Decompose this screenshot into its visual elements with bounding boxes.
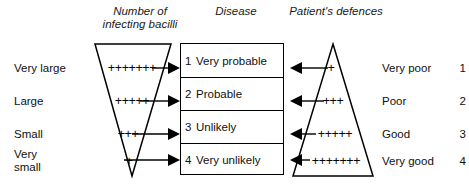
defences-label-row-2-number: 2 — [456, 95, 466, 108]
disease-row-2-label: Probable — [196, 88, 242, 100]
column-heading-patients-defences: Patient's defences — [272, 5, 400, 18]
defences-label-row-3: Good 3 — [382, 128, 466, 141]
bacilli-label-row-1: Very large — [14, 62, 96, 75]
defences-label-row-1: Very poor 1 — [382, 62, 466, 75]
defences-label-row-1-text: Very poor — [382, 62, 431, 75]
disease-row-1: 1 Very probable — [181, 44, 283, 77]
defences-pluses-row-4: +++++++ — [299, 155, 373, 167]
disease-row-3: 3 Unlikely — [181, 110, 283, 143]
defences-pluses-row-3: +++++ — [300, 128, 370, 140]
defences-pluses-row-1: + — [300, 62, 362, 74]
disease-probability-diagram: Number of infecting bacilli Disease Pati… — [0, 0, 469, 188]
defences-pluses-row-2: +++ — [300, 95, 366, 107]
defences-label-row-1-number: 1 — [456, 62, 466, 75]
bacilli-label-row-4: Very small — [14, 148, 96, 174]
defences-label-row-3-number: 3 — [456, 128, 466, 141]
disease-row-4-number: 4 — [185, 154, 196, 166]
disease-row-3-number: 3 — [185, 121, 196, 133]
disease-box: 1 Very probable 2 Probable 3 Unlikely 4 … — [180, 43, 284, 175]
disease-row-4: 4 Very unlikely — [181, 143, 283, 176]
column-heading-infecting-bacilli: Number of infecting bacilli — [92, 5, 188, 31]
arrow-bacilli-to-disease-3 — [132, 126, 182, 142]
arrow-bacilli-to-disease-4 — [124, 152, 182, 168]
disease-row-2: 2 Probable — [181, 77, 283, 110]
defences-label-row-3-text: Good — [382, 128, 410, 141]
defences-label-row-4-text: Very good — [382, 155, 434, 168]
bacilli-label-row-3: Small — [14, 128, 96, 141]
disease-row-2-number: 2 — [185, 88, 196, 100]
disease-row-4-label: Very unlikely — [196, 154, 261, 166]
column-heading-disease: Disease — [190, 5, 282, 18]
arrow-bacilli-to-disease-1 — [152, 60, 182, 76]
disease-row-1-number: 1 — [185, 55, 196, 67]
arrow-bacilli-to-disease-2 — [140, 93, 182, 109]
disease-row-1-label: Very probable — [196, 55, 267, 67]
disease-row-3-label: Unlikely — [196, 121, 236, 133]
bacilli-label-row-2: Large — [14, 95, 96, 108]
defences-label-row-4-number: 4 — [456, 155, 466, 168]
defences-label-row-4: Very good 4 — [382, 155, 466, 168]
defences-label-row-2-text: Poor — [382, 95, 406, 108]
defences-label-row-2: Poor 2 — [382, 95, 466, 108]
